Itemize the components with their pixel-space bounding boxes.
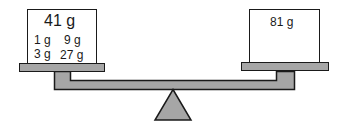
left-weight-4: 27 g	[60, 48, 83, 62]
left-weight-1: 1 g	[34, 33, 51, 47]
right-weight-box: 81 g	[249, 9, 320, 63]
left-weight-3: 3 g	[34, 47, 51, 61]
right-pan	[241, 62, 329, 71]
right-total-label: 81 g	[270, 15, 293, 29]
left-total-label: 41 g	[44, 12, 75, 30]
left-weight-box: 41 g 1 g 9 g 3 g 27 g	[27, 9, 97, 64]
fulcrum-triangle	[155, 90, 191, 121]
left-weight-2: 9 g	[64, 33, 81, 47]
left-pan	[19, 63, 105, 72]
beam	[55, 72, 295, 90]
